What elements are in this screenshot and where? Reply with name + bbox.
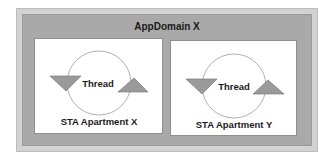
apartment-label-y: STA Apartment Y (174, 119, 294, 131)
appdomain-title: AppDomain X (22, 20, 312, 34)
thread-label-x: Thread (73, 78, 123, 90)
thread-label-y: Thread (209, 81, 259, 93)
apartment-label-x: STA Apartment X (39, 116, 159, 128)
